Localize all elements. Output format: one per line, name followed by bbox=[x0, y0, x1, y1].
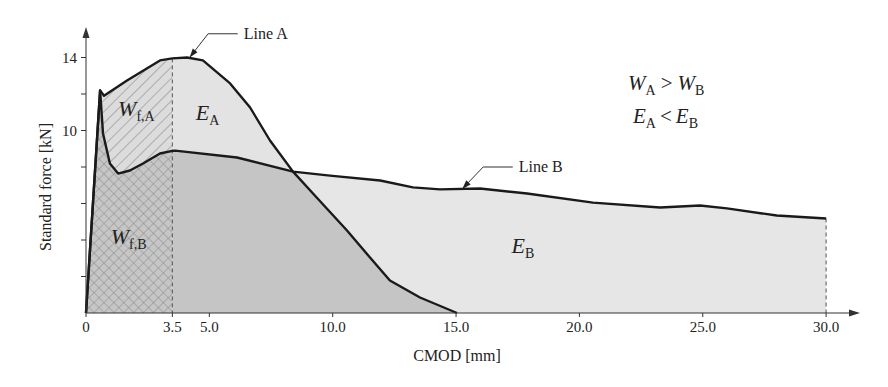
callout-leader-line bbox=[190, 34, 238, 58]
callout-leader-line bbox=[462, 167, 513, 189]
y-ticks: 1014 bbox=[62, 50, 86, 277]
x-tick-label: 5.0 bbox=[200, 319, 219, 335]
y-axis-arrow-icon bbox=[83, 27, 90, 38]
cmod-force-chart: 03.55.010.015.020.025.030.0 1014 CMOD [m… bbox=[0, 0, 888, 387]
x-axis-title: CMOD [mm] bbox=[413, 347, 501, 364]
callout-label-line-b: Line B bbox=[519, 158, 563, 175]
y-tick-label: 14 bbox=[62, 50, 78, 66]
area-fills bbox=[86, 58, 826, 314]
x-ticks: 03.55.010.015.020.025.030.0 bbox=[82, 313, 839, 335]
x-tick-label: 25.0 bbox=[690, 319, 716, 335]
y-tick-label: 10 bbox=[62, 123, 77, 139]
x-tick-label: 10.0 bbox=[320, 319, 346, 335]
x-axis-arrow-icon bbox=[849, 310, 860, 317]
x-tick-label: 15.0 bbox=[443, 319, 469, 335]
annotation-e-relation: EA<EB bbox=[632, 104, 698, 131]
x-tick-label: 0 bbox=[82, 319, 90, 335]
y-axis-title: Standard force [kN] bbox=[37, 123, 54, 251]
x-tick-label: 3.5 bbox=[163, 319, 182, 335]
callout-label-line-a: Line A bbox=[244, 25, 288, 42]
callout-arrowhead-icon bbox=[190, 49, 198, 58]
callout-line-a: Line A bbox=[190, 25, 289, 58]
x-tick-label: 30.0 bbox=[813, 319, 839, 335]
x-tick-label: 20.0 bbox=[566, 319, 592, 335]
relation-annotations: WA>WB EA<EB bbox=[628, 71, 704, 131]
annotation-w-relation: WA>WB bbox=[628, 71, 704, 98]
callout-line-b: Line B bbox=[462, 158, 563, 189]
